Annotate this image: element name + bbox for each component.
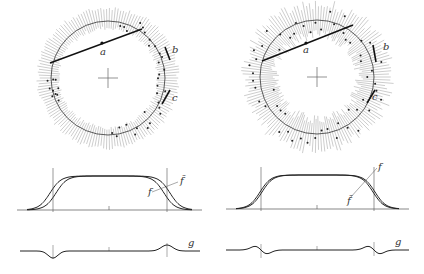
- sample-dot: [366, 76, 368, 78]
- sample-dot: [276, 105, 278, 107]
- radial-tick: [92, 127, 97, 147]
- sample-dot: [369, 42, 371, 44]
- radial-tick: [138, 117, 152, 135]
- sample-dot: [356, 109, 358, 111]
- curve-f: [236, 175, 399, 209]
- sample-dot: [360, 40, 362, 42]
- sample-dot: [380, 61, 382, 63]
- sample-dot: [314, 137, 316, 139]
- radial-tick: [158, 82, 178, 84]
- radial-tick: [360, 65, 390, 70]
- radial-tick: [320, 6, 322, 36]
- sample-dot: [293, 33, 295, 35]
- radial-tick: [69, 117, 81, 134]
- sample-dot: [320, 28, 322, 30]
- sample-dot: [360, 60, 362, 62]
- sample-dot: [52, 90, 54, 92]
- sample-dot: [154, 45, 156, 47]
- radial-tick: [159, 69, 180, 72]
- sample-dot: [345, 39, 347, 41]
- label-f: f: [377, 161, 384, 172]
- radial-tick: [132, 17, 143, 36]
- sample-dot: [300, 137, 302, 139]
- radial-tick: [355, 80, 394, 83]
- sample-dot: [337, 122, 339, 124]
- label-b: b: [383, 41, 389, 52]
- sample-dot: [119, 25, 121, 27]
- radial-tick: [104, 129, 105, 149]
- sample-dot: [159, 113, 161, 115]
- radial-tick: [149, 105, 166, 116]
- sample-dot: [142, 26, 144, 28]
- sample-dot: [49, 87, 51, 89]
- sample-dot: [291, 140, 293, 142]
- radial-tick: [113, 129, 115, 146]
- radial-tick: [157, 61, 175, 66]
- radial-tick: [58, 111, 72, 125]
- sample-dot: [279, 34, 281, 36]
- sample-dot: [149, 122, 151, 124]
- sample-dot: [264, 105, 266, 107]
- radial-tick: [37, 86, 59, 90]
- sample-dot: [374, 83, 376, 85]
- radial-tick: [363, 79, 390, 80]
- radial-tick: [146, 111, 160, 124]
- sample-dot: [158, 73, 160, 75]
- radial-tick: [315, 1, 316, 30]
- radial-tick: [38, 84, 58, 86]
- label-g: g: [395, 236, 401, 247]
- sample-dot: [164, 90, 166, 92]
- sample-dot: [134, 134, 136, 136]
- left-circle-dots: [47, 22, 167, 137]
- sample-dot: [278, 49, 280, 51]
- right-panel: a b c f f̃ g: [226, 1, 409, 258]
- radial-tick: [121, 126, 126, 145]
- radial-tick: [157, 66, 179, 70]
- center-cross-icon: [98, 68, 118, 88]
- radial-tick: [38, 72, 60, 74]
- radial-tick: [73, 17, 84, 35]
- left-panel: a b c f f̃ g: [17, 7, 202, 259]
- sample-dot: [159, 52, 161, 54]
- sample-dot: [255, 58, 257, 60]
- radial-tick: [104, 9, 105, 29]
- sample-dot: [51, 95, 53, 97]
- radial-tick: [39, 69, 59, 71]
- sample-dot: [253, 49, 255, 51]
- curve-g: [20, 245, 200, 258]
- sample-dot: [278, 131, 280, 133]
- radial-tick: [101, 128, 103, 146]
- radial-tick: [330, 117, 341, 150]
- sample-dot: [252, 80, 254, 82]
- sample-dot: [343, 32, 345, 34]
- sample-dot: [289, 37, 291, 39]
- sample-dot: [284, 113, 286, 115]
- curve-g: [226, 246, 409, 253]
- radial-tick: [56, 29, 71, 43]
- label-c: c: [172, 92, 178, 103]
- sample-dot: [144, 111, 146, 113]
- radial-tick: [49, 39, 66, 50]
- sample-dot: [111, 132, 113, 134]
- sample-dot: [126, 30, 128, 32]
- sample-dot: [295, 22, 297, 24]
- label-a: a: [303, 44, 309, 55]
- sample-dot: [258, 100, 260, 102]
- sample-dot: [148, 45, 150, 47]
- radial-tick: [362, 68, 391, 72]
- sample-dot: [157, 101, 159, 103]
- sample-dot: [158, 107, 160, 109]
- sample-dot: [327, 128, 329, 130]
- radial-tick: [150, 101, 169, 111]
- sample-dot: [261, 45, 263, 47]
- sample-dot: [163, 69, 165, 71]
- label-leader: [350, 168, 377, 198]
- sample-dot: [144, 31, 146, 33]
- radial-tick: [286, 116, 298, 142]
- radial-tick: [284, 7, 297, 34]
- sample-dot: [139, 22, 141, 24]
- label-f-tilde: f̃: [179, 175, 186, 186]
- sample-dot: [157, 77, 159, 79]
- sample-dot: [55, 93, 57, 95]
- radial-tick: [149, 108, 164, 119]
